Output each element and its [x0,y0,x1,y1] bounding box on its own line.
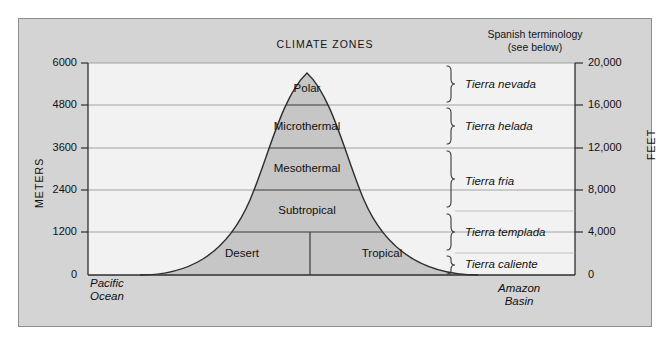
spanish-heading-line-2: (see below) [455,41,615,54]
feet-tick-0: 0 [588,268,640,280]
amazon-basin-label: Amazon Basin [498,282,540,308]
pacific-ocean-line-2: Ocean [90,290,124,303]
meters-tick-1200: 1200 [33,225,77,237]
spanish-terminology-heading: Spanish terminology (see below) [455,28,615,53]
meters-tick-6000: 6000 [33,56,77,68]
feet-tick-16000: 16,000 [588,98,640,110]
zone-label-microthermal: Microthermal [274,120,340,132]
feet-tick-4000: 4,000 [588,225,640,237]
zone-label-desert: Desert [225,247,259,259]
pacific-ocean-line-1: Pacific [90,277,124,290]
zone-label-polar: Polar [294,82,321,94]
spanish-term-tierra-helada: Tierra helada [465,120,533,132]
spanish-term-tierra-nevada: Tierra nevada [465,78,536,90]
spanish-heading-line-1: Spanish terminology [455,28,615,41]
meters-tick-3600: 3600 [33,141,77,153]
meters-tick-0: 0 [33,268,77,280]
climate-zones-title: CLIMATE ZONES [240,38,410,50]
amazon-basin-line-1: Amazon [498,282,540,295]
zone-label-subtropical: Subtropical [278,204,336,216]
climate-zones-figure: CLIMATE ZONES Spanish terminology (see b… [0,0,670,350]
feet-axis-title: FEET [645,129,657,160]
zone-label-tropical: Tropical [362,247,402,259]
spanish-term-tierra-caliente: Tierra caliente [465,258,538,270]
pacific-ocean-label: Pacific Ocean [90,277,124,303]
feet-tick-12000: 12,000 [588,141,640,153]
spanish-term-tierra-templada: Tierra templada [465,226,545,238]
spanish-term-tierra-fria: Tierra fria [465,175,514,187]
feet-tick-20000: 20,000 [588,56,640,68]
amazon-basin-line-2: Basin [498,295,540,308]
meters-axis-title: METERS [33,158,45,208]
meters-tick-4800: 4800 [33,98,77,110]
zone-label-mesothermal: Mesothermal [274,162,340,174]
feet-tick-8000: 8,000 [588,183,640,195]
